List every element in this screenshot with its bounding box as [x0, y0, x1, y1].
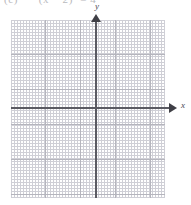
coordinate-plane: x y: [11, 20, 165, 198]
x-axis-arrowhead-icon: [169, 103, 177, 113]
y-axis-label: y: [95, 2, 99, 11]
y-axis-line: [95, 17, 97, 198]
caption-expression: (x − 2)² = 4: [39, 0, 97, 5]
caption-text: (c) (x − 2)² = 4: [4, 0, 96, 5]
x-axis-label: x: [181, 101, 185, 110]
major-grid: [11, 20, 165, 198]
caption-item-label: (c): [4, 0, 18, 5]
x-axis-line: [11, 107, 171, 109]
y-axis-arrowhead-icon: [91, 14, 101, 22]
